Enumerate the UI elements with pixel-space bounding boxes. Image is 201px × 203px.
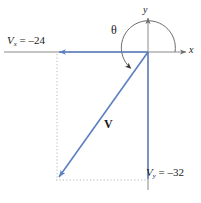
vy-label: Vy = –32 — [146, 167, 184, 178]
x-axis-label-text: x — [189, 44, 193, 55]
vector-label: V — [104, 118, 113, 130]
y-axis-label: y — [143, 5, 147, 15]
vx-symbol: V — [7, 34, 14, 46]
vy-value: = –32 — [159, 166, 184, 178]
vector-diagram-figure: Vx = –24 Vy = –32 θ V x y — [0, 0, 201, 203]
y-axis-label-text: y — [143, 4, 147, 15]
vy-symbol: V — [146, 166, 153, 178]
x-axis-label: x — [189, 45, 193, 55]
vx-label: Vx = –24 — [7, 35, 45, 46]
vy-subscript: y — [153, 172, 156, 179]
theta-label: θ — [111, 24, 117, 36]
vx-subscript: x — [14, 40, 17, 47]
vector-v-arrow — [59, 52, 148, 177]
vx-value: = –24 — [20, 34, 45, 46]
